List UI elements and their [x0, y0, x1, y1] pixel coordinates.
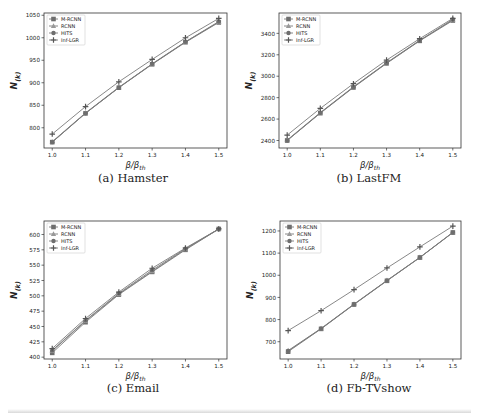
- data-point: [418, 255, 422, 259]
- legend: M-RCNNRCNNHITSInf-LGR: [283, 223, 321, 253]
- legend-label: Inf-LGR: [297, 245, 316, 251]
- legend-label: RCNN: [297, 231, 311, 237]
- caption-fbtvshow: (d) Fb-TVshow: [327, 381, 412, 395]
- y-tick-label: 1100: [262, 250, 277, 256]
- data-point: [351, 287, 357, 293]
- data-point: [384, 265, 390, 271]
- chart-fbtvshow: 7008009001000110012001.01.11.21.31.41.5β…: [0, 0, 479, 413]
- data-point: [319, 326, 323, 330]
- legend-marker: [287, 225, 292, 230]
- data-point: [285, 328, 291, 334]
- legend-marker: [287, 239, 291, 243]
- data-point: [385, 278, 389, 282]
- chart-panel-fbtvshow: 7008009001000110012001.01.11.21.31.41.5β…: [0, 0, 479, 413]
- legend-label: M-RCNN: [297, 224, 318, 230]
- data-point: [318, 308, 324, 314]
- y-tick-label: 700: [265, 339, 276, 345]
- data-point: [286, 349, 290, 353]
- data-point: [352, 302, 356, 306]
- data-point: [417, 244, 423, 250]
- x-tick-label: 1.0: [284, 363, 293, 369]
- legend-label: HITS: [297, 238, 308, 244]
- x-tick-label: 1.1: [317, 363, 326, 369]
- y-tick-label: 900: [265, 295, 276, 301]
- x-tick-label: 1.2: [350, 363, 359, 369]
- x-tick-label: 1.3: [383, 363, 392, 369]
- data-point: [451, 230, 455, 234]
- x-tick-label: 1.4: [415, 363, 424, 369]
- y-tick-label: 800: [265, 317, 276, 323]
- x-tick-label: 1.5: [448, 363, 457, 369]
- data-point: [450, 223, 456, 229]
- y-axis-label: N(k): [245, 281, 258, 299]
- y-tick-label: 1200: [262, 228, 277, 234]
- y-tick-label: 1000: [262, 272, 277, 278]
- cut-off-text-line: [8, 409, 471, 413]
